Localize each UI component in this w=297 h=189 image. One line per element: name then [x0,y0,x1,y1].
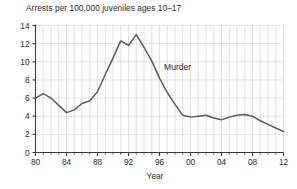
x-tick-label: 96 [150,158,170,166]
y-tick-label: 10 [14,58,30,66]
x-tick-label: 00 [181,158,201,166]
y-tick-label: 14 [14,22,30,30]
chart-figure: Arrests per 100,000 juveniles ages 10–17… [0,0,297,189]
y-tick-label: 6 [14,94,30,102]
axis-ticks [33,26,284,157]
x-axis-title: Year [125,172,185,181]
y-tick-label: 2 [14,130,30,138]
series-label-murder: Murder [164,62,191,72]
x-tick-label: 04 [212,158,232,166]
y-tick-label: 4 [14,112,30,120]
y-tick-label: 0 [14,149,30,157]
x-tick-label: 08 [243,158,263,166]
x-tick-label: 88 [88,158,108,166]
x-tick-label: 84 [57,158,77,166]
y-tick-label: 8 [14,76,30,84]
x-tick-label: 92 [119,158,139,166]
y-tick-label: 12 [14,40,30,48]
gridlines-vertical [36,26,284,153]
x-tick-label: 12 [274,158,294,166]
x-tick-label: 80 [26,158,46,166]
